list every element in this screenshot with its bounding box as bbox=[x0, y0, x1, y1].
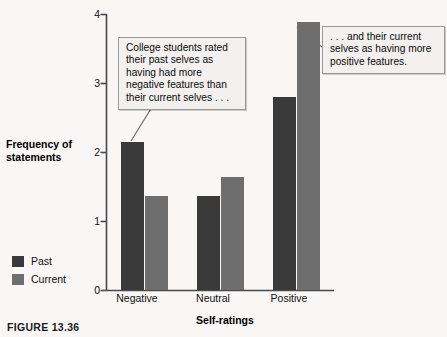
x-tick-label-positive: Positive bbox=[244, 292, 334, 304]
legend-label-past: Past bbox=[31, 256, 52, 267]
y-axis-title-line-2: statements bbox=[6, 151, 90, 164]
annotation-callout-past-selves: College students rated their past selves… bbox=[118, 37, 246, 110]
bar-neutral-current bbox=[221, 177, 244, 290]
y-tick-label-2: 2 bbox=[84, 146, 100, 158]
callout-left-leader-line bbox=[131, 107, 152, 141]
bar-negative-current bbox=[145, 196, 168, 290]
x-axis-title: Self-ratings bbox=[120, 314, 330, 326]
y-axis-title-line-1: Frequency of bbox=[6, 138, 90, 151]
bar-neutral-past bbox=[197, 196, 220, 290]
bar-negative-past bbox=[121, 142, 144, 290]
figure-caption: FIGURE 13.36 bbox=[7, 321, 79, 333]
bar-positive-past bbox=[273, 97, 296, 290]
y-axis-title: Frequency of statements bbox=[6, 138, 90, 163]
y-tick-label-1: 1 bbox=[84, 215, 100, 227]
bar-positive-current bbox=[297, 22, 320, 290]
y-tick-label-4: 4 bbox=[84, 8, 100, 20]
figure-13-36: Frequency of statements 0 1 2 3 4 Negati… bbox=[0, 0, 447, 337]
legend-label-current: Current bbox=[31, 274, 66, 285]
legend-item-current: Current bbox=[12, 272, 66, 287]
y-tick-label-3: 3 bbox=[84, 77, 100, 89]
annotation-callout-current-selves: . . . and their current selves as having… bbox=[322, 26, 445, 74]
legend-item-past: Past bbox=[12, 254, 66, 269]
legend-swatch-current-icon bbox=[12, 274, 24, 285]
chart-legend: Past Current bbox=[12, 254, 66, 290]
legend-swatch-past-icon bbox=[12, 256, 24, 267]
